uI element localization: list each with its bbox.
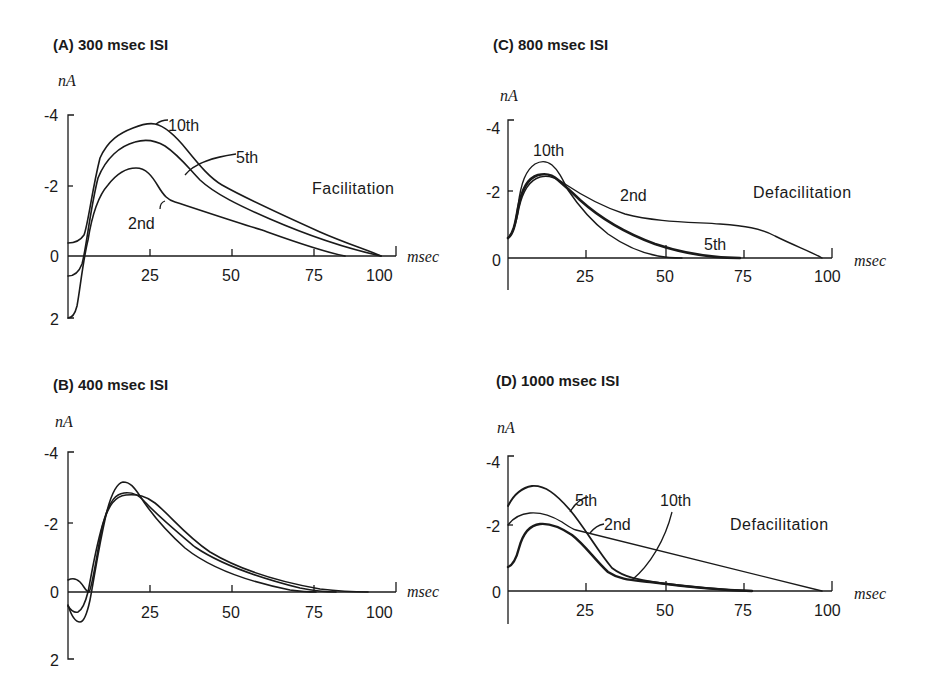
panel-c-xtick: 50 [656, 268, 674, 285]
panel-c-xlabel: msec [854, 252, 886, 269]
panel-c-label-5th: 5th [704, 236, 726, 253]
panel-b-curve-1 [68, 482, 316, 622]
panel-d-label-10th: 10th [660, 492, 691, 509]
panel-c-label-2nd: 2nd [620, 187, 647, 204]
panel-b-ytick: -4 [44, 445, 58, 462]
panel-b-curve-3 [68, 495, 368, 592]
panel-c-y-axis [508, 120, 514, 290]
panel-d-ytick: 0 [492, 584, 501, 601]
panel-a-xlabel: msec [407, 248, 439, 265]
panel-a-xtick: 25 [141, 267, 159, 284]
panel-d-curve-5th [508, 486, 752, 591]
panel-d-ytick: -4 [486, 454, 500, 471]
panel-a-label-2nd: 2nd [128, 215, 155, 232]
panel-d-plot: -4 -2 0 25 50 75 100 msec 5th 2nd 10th D… [486, 454, 886, 624]
panel-b-plot: -4 -2 0 2 25 50 75 100 msec [44, 445, 439, 669]
panel-c-annotation: Defacilitation [753, 184, 852, 201]
panel-a-xtick: 100 [366, 267, 393, 284]
panel-b-ytick: 2 [50, 652, 59, 669]
panel-d-xtick: 75 [734, 602, 752, 619]
panel-d-annotation: Defacilitation [730, 516, 829, 533]
panel-b-xtick: 100 [366, 604, 393, 621]
panel-a-curve-2nd [68, 168, 345, 318]
panel-b-ytick: -2 [44, 516, 58, 533]
panel-a-xtick: 50 [222, 267, 240, 284]
panel-c-ytick: -2 [486, 184, 500, 201]
panel-a-label-5th: 5th [236, 149, 258, 166]
panel-c-plot: -4 -2 0 25 50 75 100 msec 10th 2nd 5th D… [486, 120, 886, 290]
panel-a-ytick: 0 [50, 248, 59, 265]
panel-a-ytick: -4 [44, 107, 58, 124]
panel-a-xtick: 75 [305, 267, 323, 284]
panel-b-xlabel: msec [407, 583, 439, 600]
panel-a-ytick: 2 [50, 311, 59, 328]
panel-b-xtick: 50 [222, 604, 240, 621]
panel-a-ytick: -2 [44, 178, 58, 195]
panel-c-xtick: 100 [814, 268, 841, 285]
panel-a-y-axis [68, 115, 74, 318]
panel-d-label-2nd: 2nd [604, 516, 631, 533]
panel-b-xtick: 25 [141, 604, 159, 621]
panel-b-y-axis [68, 452, 74, 659]
panel-b-ytick: 0 [50, 584, 59, 601]
panel-d-xtick: 100 [814, 602, 841, 619]
panel-d-xtick: 25 [576, 602, 594, 619]
panel-a-plot: -4 -2 0 2 25 50 75 100 msec 10th 5th 2nd… [44, 107, 439, 328]
panel-d-xlabel: msec [854, 585, 886, 602]
panel-d-label-5th: 5th [575, 492, 597, 509]
panel-d-y-axis [508, 456, 514, 624]
panel-c-label-10th: 10th [533, 142, 564, 159]
panel-d-ytick: -2 [486, 518, 500, 535]
panel-a-label-10th: 10th [168, 117, 199, 134]
panel-d-curve-10th [508, 524, 752, 591]
panel-c-xtick: 75 [734, 268, 752, 285]
panel-d-xtick: 50 [656, 602, 674, 619]
panel-c-ytick: -4 [486, 120, 500, 137]
figure-canvas: -4 -2 0 2 25 50 75 100 msec 10th 5th 2nd… [0, 0, 936, 697]
panel-c-xtick: 25 [576, 268, 594, 285]
panel-a-annotation: Facilitation [312, 180, 394, 197]
panel-c-ytick: 0 [492, 252, 501, 269]
panel-b-xtick: 75 [305, 604, 323, 621]
